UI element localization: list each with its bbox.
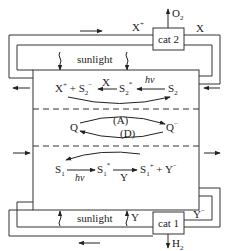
x-plus-label: X+ — [132, 20, 144, 33]
x-arrow-label: X — [102, 76, 110, 88]
sunlight-wave-icon — [59, 211, 61, 226]
diagram-canvas: cat 2 O2 X+ X sunlight X+ + S2− X S2* hν… — [0, 0, 229, 251]
o2-label: O2 — [172, 7, 184, 22]
x-label: X — [196, 22, 204, 34]
y-minus-label: Y− — [193, 207, 205, 220]
h2-label: H2 — [172, 237, 184, 251]
sunlight-wave-icon — [126, 211, 128, 226]
q-label: Q — [70, 121, 78, 133]
label-a: (A) — [113, 114, 129, 127]
sunlight-wave-icon — [59, 52, 61, 70]
hv-label-lower: hν — [75, 172, 85, 183]
cat1-label: cat 1 — [158, 217, 179, 229]
sunlight-label-bottom: sunlight — [77, 212, 112, 224]
cat2-label: cat 2 — [158, 33, 179, 45]
hv-label-upper: hν — [145, 74, 155, 85]
sunlight-wave-icon — [126, 52, 128, 70]
diagram-svg: cat 2 O2 X+ X sunlight X+ + S2− X S2* hν… — [0, 0, 229, 251]
label-d: (D) — [120, 127, 136, 140]
sunlight-label-top: sunlight — [77, 53, 112, 65]
y-label: Y — [131, 211, 139, 223]
y-arrow-label: Y — [120, 171, 128, 183]
